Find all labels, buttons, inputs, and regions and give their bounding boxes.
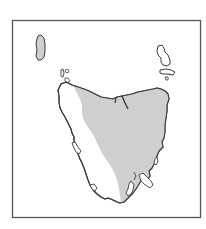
islet bbox=[65, 69, 69, 73]
hunter-islets bbox=[61, 69, 64, 77]
islet bbox=[165, 77, 168, 80]
distribution-map bbox=[0, 0, 206, 229]
king-island bbox=[36, 35, 45, 60]
map-canvas bbox=[0, 0, 206, 229]
